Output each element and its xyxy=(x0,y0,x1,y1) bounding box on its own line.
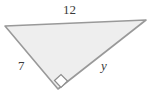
side-label-left: 7 xyxy=(18,59,25,72)
side-label-top: 12 xyxy=(63,3,76,16)
triangle-shape xyxy=(5,20,146,89)
geometry-figure: 12 7 y xyxy=(0,0,149,96)
side-label-hypotenuse: y xyxy=(101,59,107,72)
